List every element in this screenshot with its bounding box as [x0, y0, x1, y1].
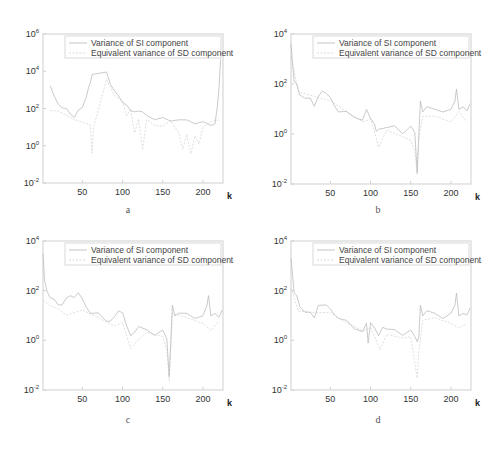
x-tick-label: 100 [363, 188, 378, 198]
legend-label-1: Variance of SI component [339, 38, 437, 48]
y-tick-label: 100 [274, 128, 288, 139]
subplot-a: 10-210010210410650100150200kVariance of … [24, 28, 234, 215]
y-tick-label: 10-2 [272, 178, 288, 189]
x-tick-label: 150 [403, 394, 418, 404]
x-tick-label: 150 [155, 187, 170, 197]
subplot-c: 10-210010210450100150200kVariance of SI … [24, 235, 234, 425]
legend: Variance of SI componentEquivalent varia… [65, 243, 234, 265]
y-tick-label: 102 [26, 285, 40, 296]
legend: Variance of SI componentEquivalent varia… [313, 243, 482, 265]
y-tick-label: 104 [274, 235, 288, 246]
x-tick-label: 50 [77, 187, 87, 197]
legend-label-1: Variance of SI component [91, 38, 189, 48]
x-tick-label: 50 [77, 394, 87, 404]
panel-caption: b [376, 204, 381, 215]
x-tick-label: 100 [115, 187, 130, 197]
x-tick-label: 100 [363, 394, 378, 404]
y-tick-label: 104 [274, 28, 288, 39]
y-tick-label: 104 [26, 235, 40, 246]
subplot-b: 10-210010210450100150200kVariance of SI … [272, 28, 482, 215]
x-tick-label: 200 [443, 394, 458, 404]
x-axis-label: k [227, 191, 233, 201]
y-tick-label: 102 [26, 103, 40, 114]
legend-label-2: Equivalent variance of SD component [91, 48, 234, 58]
panel-caption: c [126, 414, 131, 425]
x-tick-label: 200 [195, 394, 210, 404]
x-tick-label: 150 [155, 394, 170, 404]
legend-label-2: Equivalent variance of SD component [339, 48, 482, 58]
legend-label-2: Equivalent variance of SD component [339, 255, 482, 265]
legend: Variance of SI componentEquivalent varia… [65, 36, 234, 58]
y-tick-label: 100 [26, 140, 40, 151]
x-axis-label: k [475, 192, 481, 202]
y-tick-label: 106 [26, 28, 40, 39]
panel-caption: a [126, 204, 131, 215]
x-tick-label: 150 [403, 188, 418, 198]
x-tick-label: 200 [443, 188, 458, 198]
y-tick-label: 104 [26, 65, 40, 76]
y-tick-label: 102 [274, 285, 288, 296]
panel-caption: d [376, 414, 381, 425]
x-tick-label: 50 [325, 394, 335, 404]
y-tick-label: 100 [26, 334, 40, 345]
figure: 10-210010210410650100150200kVariance of … [0, 0, 496, 450]
x-tick-label: 200 [195, 187, 210, 197]
legend-label-1: Variance of SI component [339, 245, 437, 255]
y-tick-label: 10-2 [272, 384, 288, 395]
y-tick-label: 100 [274, 334, 288, 345]
legend-label-1: Variance of SI component [91, 245, 189, 255]
x-axis-label: k [475, 398, 481, 408]
y-tick-label: 102 [274, 78, 288, 89]
legend: Variance of SI componentEquivalent varia… [313, 36, 482, 58]
subplot-d: 10-210010210450100150200kVariance of SI … [272, 235, 482, 425]
x-tick-label: 50 [325, 188, 335, 198]
x-axis-label: k [227, 398, 233, 408]
legend-label-2: Equivalent variance of SD component [91, 255, 234, 265]
x-tick-label: 100 [115, 394, 130, 404]
y-tick-label: 10-2 [24, 384, 40, 395]
y-tick-label: 10-2 [24, 177, 40, 188]
